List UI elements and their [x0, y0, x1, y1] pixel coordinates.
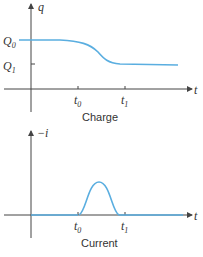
t1-sub: 1	[124, 100, 128, 109]
svg-text:Q0: Q0	[3, 34, 16, 50]
svg-text:Q1: Q1	[3, 59, 16, 75]
charge-plot: q t Q0 Q1 t0 t1 Charge	[3, 0, 198, 123]
t-axis-label: t	[194, 209, 198, 223]
q-axis-label: q	[38, 0, 44, 14]
current-plot: −i t t0 t1 Current	[4, 126, 198, 249]
t-axis-label: t	[194, 83, 198, 97]
svg-text:t0: t0	[74, 219, 81, 235]
q0-label: Q	[3, 34, 12, 48]
charge-curve	[19, 40, 178, 65]
t0-sub: 0	[77, 100, 81, 109]
svg-text:t0: t0	[74, 93, 81, 109]
t1-sub: 1	[124, 226, 128, 235]
current-caption: Current	[81, 237, 118, 249]
minus-i-axis-label: −i	[37, 126, 48, 140]
q0-sub: 0	[12, 41, 16, 50]
diagram: q t Q0 Q1 t0 t1 Charge −i t t0 t1 Curren…	[0, 0, 203, 257]
current-pulse	[79, 182, 119, 215]
charge-caption: Charge	[82, 111, 118, 123]
q1-label: Q	[3, 59, 12, 73]
svg-text:t1: t1	[121, 93, 128, 109]
t0-sub: 0	[77, 226, 81, 235]
svg-text:t1: t1	[121, 219, 128, 235]
q1-sub: 1	[12, 66, 16, 75]
